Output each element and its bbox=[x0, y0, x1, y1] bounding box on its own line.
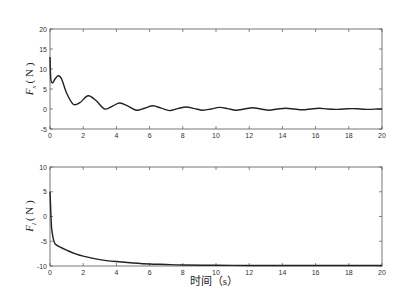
fx-plot-frame bbox=[50, 29, 382, 129]
x-tick-label: 16 bbox=[312, 269, 320, 276]
y-tick-label: 0 bbox=[43, 106, 47, 113]
fx-y-axis-label: Fx( N ) bbox=[23, 62, 38, 96]
x-tick-label: 10 bbox=[212, 132, 220, 139]
fx-x-tick-labels: 02468101214161820 bbox=[48, 132, 386, 139]
fx-curve bbox=[50, 57, 382, 111]
x-tick-label: 2 bbox=[81, 132, 85, 139]
fl-plot: 02468101214161820 1050-5-10 Fl( N ) 时间（s… bbox=[23, 164, 386, 288]
x-tick-label: 0 bbox=[48, 132, 52, 139]
fl-y-tick-labels: 1050-5-10 bbox=[37, 164, 47, 270]
fl-plot-frame bbox=[50, 167, 382, 266]
x-tick-label: 18 bbox=[345, 269, 353, 276]
x-tick-label: 12 bbox=[245, 132, 253, 139]
y-tick-label: 10 bbox=[39, 164, 47, 171]
x-tick-label: 8 bbox=[181, 132, 185, 139]
x-tick-label: 12 bbox=[245, 269, 253, 276]
x-tick-label: 20 bbox=[378, 132, 386, 139]
chart-figure: 02468101214161820 20151050-5 Fx( N ) 024… bbox=[0, 0, 405, 300]
fl-ticks bbox=[50, 167, 382, 266]
x-tick-label: 20 bbox=[378, 269, 386, 276]
y-tick-label: 5 bbox=[43, 188, 47, 195]
x-tick-label: 2 bbox=[81, 269, 85, 276]
x-tick-label: 6 bbox=[148, 132, 152, 139]
x-tick-label: 14 bbox=[279, 132, 287, 139]
x-tick-label: 6 bbox=[148, 269, 152, 276]
x-tick-label: 4 bbox=[114, 269, 118, 276]
fl-y-axis-label: Fl( N ) bbox=[23, 200, 38, 233]
x-tick-label: 8 bbox=[181, 269, 185, 276]
y-tick-label: 5 bbox=[43, 86, 47, 93]
fx-plot: 02468101214161820 20151050-5 Fx( N ) bbox=[23, 26, 386, 140]
x-tick-label: 0 bbox=[48, 269, 52, 276]
fx-y-tick-labels: 20151050-5 bbox=[39, 26, 47, 133]
y-tick-label: -5 bbox=[41, 126, 47, 133]
x-axis-label: 时间（s） bbox=[190, 275, 238, 287]
y-tick-label: 10 bbox=[39, 66, 47, 73]
x-tick-label: 4 bbox=[114, 132, 118, 139]
x-tick-label: 14 bbox=[279, 269, 287, 276]
y-tick-label: 15 bbox=[39, 46, 47, 53]
y-tick-label: -10 bbox=[37, 263, 47, 270]
y-tick-label: -5 bbox=[41, 238, 47, 245]
x-tick-label: 18 bbox=[345, 132, 353, 139]
y-tick-label: 0 bbox=[43, 213, 47, 220]
y-tick-label: 20 bbox=[39, 26, 47, 33]
x-tick-label: 16 bbox=[312, 132, 320, 139]
fl-curve bbox=[50, 192, 382, 266]
fx-ticks bbox=[50, 29, 382, 129]
